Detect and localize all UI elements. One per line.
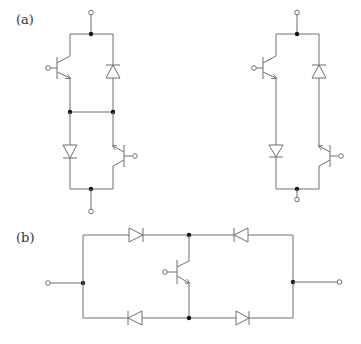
terminal-bottom <box>89 209 94 214</box>
terminal-top <box>89 10 94 15</box>
circuit-a-right <box>252 10 344 202</box>
label-a: (a) <box>16 12 34 27</box>
transistor-bottom-right <box>113 145 137 167</box>
diode-top-right <box>234 228 248 242</box>
label-b: (b) <box>16 230 34 245</box>
transistor-top-left <box>46 56 70 79</box>
diode-bottom-left <box>128 311 142 325</box>
diode-bottom-left <box>269 145 283 157</box>
terminal-top <box>295 10 300 15</box>
terminal-right <box>337 280 342 285</box>
transistor-top-left <box>252 56 276 79</box>
diode-top-right <box>106 65 120 78</box>
terminal-bottom <box>295 197 300 202</box>
base-terminal <box>133 154 138 159</box>
base-terminal <box>252 66 257 71</box>
circuit-b <box>46 228 342 325</box>
diode-bottom-right <box>236 311 249 325</box>
diode-bottom-left <box>63 145 77 158</box>
base-terminal <box>46 66 51 71</box>
base-terminal <box>339 154 344 159</box>
base-terminal <box>163 270 168 275</box>
junction-center-bottom <box>187 316 191 320</box>
terminal-left <box>46 281 51 286</box>
diode-top-right <box>312 65 326 78</box>
transistor-bottom-right <box>319 145 343 167</box>
transistor-center <box>163 260 189 284</box>
junction-top <box>295 32 299 36</box>
circuit-figure: (a) (b) <box>0 0 361 344</box>
diode-top-left <box>129 228 143 242</box>
junction-top <box>89 32 93 36</box>
circuit-a-left <box>46 10 138 214</box>
